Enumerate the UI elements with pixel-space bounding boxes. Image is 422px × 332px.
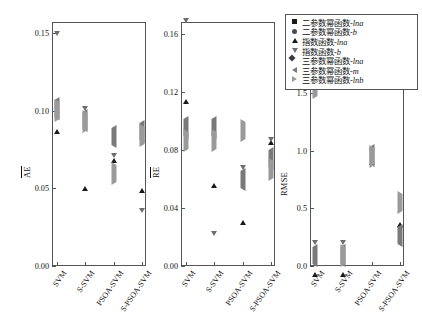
marker-left-icon [292, 67, 297, 73]
data-point [212, 132, 217, 150]
panel-ae-axis-title: AE [21, 166, 32, 178]
marker-left-icon [240, 168, 245, 191]
marker-diamond-icon [288, 54, 295, 61]
data-point [269, 161, 274, 179]
data-point [111, 165, 116, 183]
panel-re-tickmark [181, 266, 185, 267]
data-point [82, 169, 88, 187]
panel-re-axis-title: RE [150, 167, 161, 178]
marker-up-icon [292, 38, 298, 43]
chart-canvas: 0.000.050.100.15AESVMS-SVMPSOA-SVMS-PSOA… [0, 0, 422, 332]
marker-right-icon [140, 124, 145, 147]
panel-ae-xtickmark [142, 262, 143, 266]
marker-left-icon [313, 244, 318, 267]
marker-right-icon [55, 99, 60, 122]
data-point [183, 82, 189, 100]
legend-marker-circle-icon [290, 29, 299, 34]
data-point [55, 102, 60, 120]
data-point [398, 194, 403, 212]
data-point [398, 227, 403, 245]
panel-ae-xtickmark [114, 262, 115, 266]
data-point [83, 113, 88, 131]
data-point [240, 203, 246, 221]
marker-right-icon [83, 110, 88, 133]
marker-down-icon [292, 48, 298, 53]
legend-marker-square-icon [290, 19, 299, 24]
panel-rmse-ytick-label: 0.5 [279, 204, 307, 213]
panel-re-ytick-label: 0.04 [150, 203, 178, 212]
panel-ae-xtickmark [85, 262, 86, 266]
data-point [140, 127, 145, 145]
data-point [240, 171, 245, 189]
marker-circle-icon [292, 29, 297, 34]
chart-legend: 二参数幂函数-lna二参数幂函数-b指数函数-lna指数函数-b三参数幂函数-l… [285, 14, 418, 90]
panel-ae-ytick-label: 0.00 [21, 262, 49, 271]
data-point [183, 23, 189, 41]
marker-right-icon [212, 129, 217, 152]
panel-re-ytick-label: 0.08 [150, 145, 178, 154]
panel-ae-xtickmark [57, 262, 58, 266]
legend-item[interactable]: 三参数幂函数-lnb [286, 75, 417, 85]
panel-ae-ytick-label: 0.15 [21, 28, 49, 37]
panel-ae-ytick-label: 0.05 [21, 184, 49, 193]
marker-right-icon [184, 129, 189, 152]
marker-up-icon [82, 169, 88, 191]
legend-marker-left-icon [290, 67, 299, 73]
panel-re-frame [181, 22, 275, 266]
panel-rmse-xtickmark [400, 262, 401, 266]
data-point [341, 247, 346, 265]
legend-marker-right-icon [290, 76, 299, 82]
data-point [139, 171, 145, 189]
panel-rmse-tickmark [310, 151, 314, 152]
panel-ae-frame [52, 22, 146, 266]
marker-down-icon [211, 231, 217, 253]
marker-right-icon [240, 119, 245, 142]
panel-re-ytick-label: 0.00 [150, 262, 178, 271]
data-point [313, 247, 318, 265]
legend-label: 三参数幂函数-lnb [302, 73, 363, 85]
legend-marker-down-icon [290, 48, 299, 53]
panel-rmse-ytick-label: 1.0 [279, 146, 307, 155]
panel-rmse-ytick-label: 1.5 [279, 89, 307, 98]
data-point [54, 36, 60, 54]
panel-re-xtickmark [243, 262, 244, 266]
marker-down-icon [183, 18, 189, 40]
panel-rmse-xtickmark [372, 262, 373, 266]
marker-up-icon [240, 203, 246, 225]
marker-right-icon [292, 76, 297, 82]
marker-down-icon [139, 208, 145, 230]
panel-re-ytick-label: 0.12 [150, 87, 178, 96]
marker-right-icon [369, 145, 374, 168]
panel-rmse-tickmark [310, 208, 314, 209]
marker-up-icon [211, 166, 217, 188]
panel-ae-ytick-label: 0.10 [21, 106, 49, 115]
data-point [211, 166, 217, 184]
marker-right-icon [269, 158, 274, 181]
panel-rmse-ytick-label: 0.0 [279, 262, 307, 271]
legend-marker-up-icon [290, 38, 299, 43]
panel-re-ytick-label: 0.16 [150, 29, 178, 38]
panel-ae-tickmark [52, 188, 56, 189]
panel-re-xtickmark [186, 262, 187, 266]
panel-re-xtickmark [214, 262, 215, 266]
data-point [111, 128, 116, 146]
marker-up-icon [183, 82, 189, 104]
marker-square-icon [292, 19, 297, 24]
marker-down-icon [54, 31, 60, 53]
marker-left-icon [111, 125, 116, 148]
data-point [240, 122, 245, 140]
panel-re-tickmark [181, 208, 185, 209]
legend-marker-diamond-icon [290, 58, 299, 63]
marker-right-icon [398, 191, 403, 214]
data-point [184, 132, 189, 150]
panel-rmse-axis-title: RMSE [279, 172, 289, 196]
panel-re-xtickmark [271, 262, 272, 266]
data-point [211, 236, 217, 254]
data-point [139, 213, 145, 231]
marker-right-icon [111, 162, 116, 185]
marker-right-icon [341, 244, 346, 267]
marker-up-icon [139, 171, 145, 193]
marker-left-icon [398, 224, 403, 247]
panel-ae-tickmark [52, 266, 56, 267]
data-point [369, 148, 374, 166]
